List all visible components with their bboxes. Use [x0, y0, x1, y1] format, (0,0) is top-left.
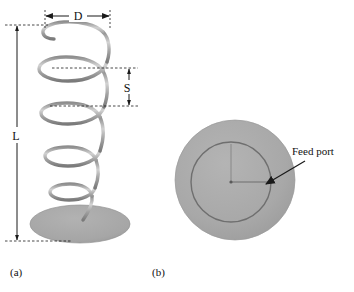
conical-spring-coil	[39, 22, 109, 220]
spring-base-disc	[30, 205, 130, 243]
feed-port-label: Feed port	[292, 145, 334, 157]
panel-a-group: D S L (a)	[5, 7, 138, 279]
technical-figure: D S L (a)	[0, 0, 354, 292]
figure-container: D S L (a)	[0, 0, 354, 292]
dimension-L-label: L	[12, 129, 19, 143]
panel-b-caption: (b)	[152, 266, 165, 279]
panel-a-caption: (a)	[10, 266, 23, 279]
dimension-S-label: S	[124, 81, 131, 95]
feed-point-marker	[229, 180, 232, 183]
dimension-D-label: D	[74, 9, 83, 23]
panel-b-group: Feed port (b)	[152, 120, 334, 279]
